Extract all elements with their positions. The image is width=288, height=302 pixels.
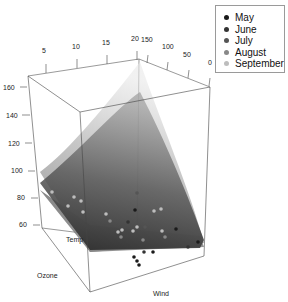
legend-marker-icon [224,38,229,43]
legend-label: September [235,58,284,69]
legend-item-may: May [224,12,284,24]
y-tick-label: 0 [208,59,212,66]
legend-item-september: September [224,58,284,70]
legend-marker-icon [224,27,229,32]
x-axis-title: Temp [66,236,83,243]
z-tick-label: 60 [19,221,27,228]
x-tick-label: 10 [72,43,80,50]
legend-marker-icon [224,15,229,20]
legend: May June July August September [215,5,285,73]
z-tick-label: 80 [17,194,25,201]
z-tick-label: 120 [8,140,20,147]
legend-label: July [235,35,253,46]
legend-item-august: August [224,47,284,59]
legend-marker-icon [224,61,229,66]
y-axis-title: Wind [153,290,169,297]
x-tick-label: 20 [131,35,139,42]
z-tick-label: 100 [11,167,23,174]
z-tick-label: 140 [6,112,18,119]
x-tick-label: 15 [102,39,110,46]
legend-marker-icon [224,50,229,55]
y-tick-label: 50 [183,51,191,58]
z-axis-title: Ozone [37,272,58,279]
legend-label: May [235,12,254,23]
x-tick-label: 5 [42,47,46,54]
legend-item-june: June [224,24,284,36]
legend-label: August [235,47,266,58]
legend-item-july: July [224,35,284,47]
y-tick-label: 100 [162,43,174,50]
legend-label: June [235,24,257,35]
y-tick-label: 150 [141,36,153,43]
z-tick-label: 160 [3,84,15,91]
